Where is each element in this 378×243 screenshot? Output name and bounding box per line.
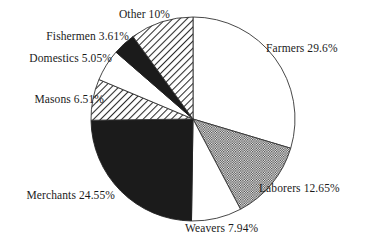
slice-label-laborers: Laborers 12.65%: [259, 183, 340, 195]
pie-slice-merchants: [91, 119, 193, 221]
slice-label-domestics: Domestics 5.05%: [29, 53, 112, 65]
slice-label-masons: Masons 6.51%: [34, 94, 104, 106]
pie-chart-figure: Farmers 29.6% Laborers 12.65% Weavers 7.…: [0, 0, 378, 243]
slice-label-merchants: Merchants 24.55%: [27, 190, 115, 202]
slice-label-farmers: Farmers 29.6%: [266, 43, 338, 55]
slice-label-other: Other 10%: [119, 9, 170, 21]
slice-label-weavers: Weavers 7.94%: [185, 223, 258, 235]
slice-label-fishermen: Fishermen 3.61%: [46, 31, 129, 43]
